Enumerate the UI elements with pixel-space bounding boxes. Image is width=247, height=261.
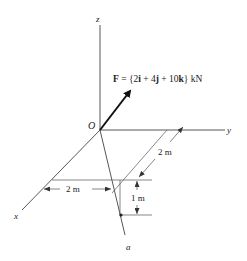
x-axis <box>22 130 100 210</box>
z-axis-label: z <box>95 14 100 24</box>
dimension-slanted-label: 2 m <box>158 147 172 157</box>
force-equation: F = {2i + 4j + 10k} kN <box>113 74 202 84</box>
dimension-vertical-label: 1 m <box>131 193 145 203</box>
dimension-slanted-bottom <box>139 159 155 177</box>
origin-label: O <box>88 120 95 131</box>
line-a-label: a <box>126 242 131 252</box>
x-axis-label: x <box>13 211 18 221</box>
force-diagram: 2 m 2 m 1 m z y x O a F = {2i + 4j + 10k… <box>0 0 247 261</box>
dimension-slanted-top <box>170 127 183 142</box>
dimension-horizontal-label: 2 m <box>66 184 80 194</box>
force-vector-arrow <box>100 91 130 130</box>
y-axis-label: y <box>226 125 231 135</box>
